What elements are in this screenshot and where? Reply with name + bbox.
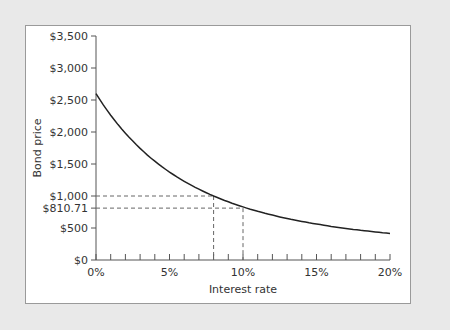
- y-tick-label: $3,000: [50, 62, 89, 75]
- x-tick-label: 20%: [378, 266, 402, 279]
- y-tick-label: $1,000: [50, 190, 89, 203]
- axes: [91, 36, 390, 260]
- y-tick-label: $2,500: [50, 94, 89, 107]
- bond-price-curve: [96, 94, 390, 234]
- x-tick-label: 0%: [87, 266, 104, 279]
- dashed-guides: [96, 196, 243, 260]
- axis-labels: $0$500$1,000$1,500$2,000$2,500$3,000$3,5…: [31, 30, 402, 296]
- annotation-label: $810.71: [43, 202, 89, 215]
- y-tick-label: $2,000: [50, 126, 89, 139]
- y-tick-label: $500: [60, 222, 88, 235]
- y-tick-label: $0: [74, 254, 88, 267]
- y-tick-label: $3,500: [50, 30, 89, 43]
- x-tick-label: 10%: [231, 266, 255, 279]
- bond-price-chart: $0$500$1,000$1,500$2,000$2,500$3,000$3,5…: [0, 0, 450, 330]
- x-tick-label: 15%: [304, 266, 328, 279]
- x-axis-label: Interest rate: [209, 283, 277, 296]
- y-axis-label: Bond price: [31, 118, 44, 177]
- x-tick-label: 5%: [161, 266, 178, 279]
- y-tick-label: $1,500: [50, 158, 89, 171]
